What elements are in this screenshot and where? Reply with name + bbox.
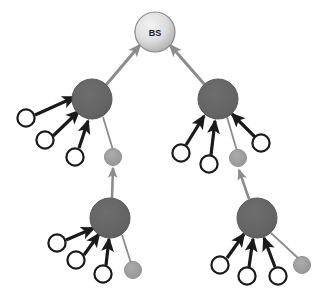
member-link-ur-2 [211, 121, 215, 155]
backhaul-link-upper-right [170, 45, 205, 85]
member-node-lr-1[interactable] [211, 256, 228, 273]
gateway-link-upper-right [227, 117, 237, 151]
inter-cluster-link-group [112, 168, 249, 199]
member-link-lr-1 [227, 234, 244, 258]
member-link-ur-3 [232, 114, 255, 137]
member-node-lr-3[interactable] [269, 267, 286, 284]
cluster-head-upper-right[interactable] [198, 79, 238, 119]
cluster-head-upper-left[interactable] [72, 79, 112, 119]
member-link-ul-2 [53, 111, 79, 136]
member-link-ll-2 [84, 234, 99, 255]
base-station-node[interactable]: BS [135, 12, 175, 52]
member-node-ul-3[interactable] [66, 148, 83, 165]
member-node-lr-2[interactable] [238, 267, 255, 284]
gateway-node-upper-right[interactable] [230, 150, 247, 167]
member-node-ur-3[interactable] [252, 134, 269, 151]
member-node-group [17, 109, 286, 284]
gateway-node-lower-right[interactable] [294, 257, 311, 274]
cluster-head-lower-left[interactable] [90, 198, 130, 238]
inter-cluster-link-left [112, 168, 113, 198]
network-topology-figure: BS [0, 0, 326, 302]
member-link-ll-1 [66, 228, 94, 240]
member-link-lr-2 [249, 239, 253, 267]
gateway-node-upper-left[interactable] [105, 149, 122, 166]
member-link-lr-3 [264, 238, 275, 267]
gateway-node-lower-left[interactable] [125, 262, 142, 279]
member-link-ul-1 [35, 97, 75, 115]
member-node-ul-2[interactable] [36, 131, 53, 148]
topology-canvas: BS [0, 0, 326, 302]
member-node-ll-3[interactable] [94, 265, 111, 282]
cluster-head-lower-right[interactable] [237, 198, 277, 238]
member-node-ur-1[interactable] [172, 144, 189, 161]
member-node-ur-2[interactable] [200, 155, 217, 172]
gateway-link-lower-right [271, 233, 299, 259]
gateway-link-upper-left [103, 117, 113, 150]
member-node-ul-1[interactable] [17, 109, 34, 126]
member-link-ll-3 [106, 239, 109, 265]
member-node-ll-1[interactable] [48, 234, 65, 251]
base-station-label: BS [149, 28, 162, 38]
backhaul-link-upper-left [106, 45, 140, 85]
member-link-group [35, 97, 275, 267]
member-node-ll-2[interactable] [67, 251, 84, 268]
gateway-link-lower-left [122, 235, 131, 263]
member-link-ul-3 [79, 121, 88, 148]
member-link-ur-1 [186, 116, 204, 145]
inter-cluster-link-right [239, 170, 249, 199]
